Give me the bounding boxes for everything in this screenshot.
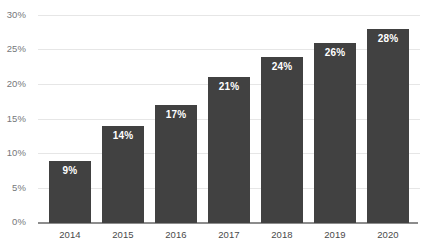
bar-2017[interactable]: 21% — [208, 77, 250, 223]
bar-value-2019: 26% — [314, 48, 356, 58]
bar-2016[interactable]: 17% — [155, 105, 197, 223]
bar-series: 9% 2014 14% 2015 17% 2016 21% 2017 24% — [38, 0, 420, 252]
y-tick-label-10: 10% — [0, 148, 26, 158]
bar-2014[interactable]: 9% — [49, 161, 91, 223]
y-tick-label-5: 5% — [0, 183, 26, 193]
bar-value-2014: 9% — [49, 166, 91, 176]
x-tick-label-2016: 2016 — [149, 230, 203, 240]
bar-value-2020: 28% — [367, 34, 409, 44]
bar-2018[interactable]: 24% — [261, 57, 303, 223]
bar-2020[interactable]: 28% — [367, 29, 409, 223]
bar-2019[interactable]: 26% — [314, 43, 356, 223]
bar-value-2015: 14% — [102, 131, 144, 141]
bar-value-2016: 17% — [155, 110, 197, 120]
bar-chart: 30% 25% 20% 15% 10% 5% 0% 9% 2014 14% 20… — [0, 0, 428, 252]
x-tick-label-2018: 2018 — [255, 230, 309, 240]
y-tick-label-25: 25% — [0, 44, 26, 54]
y-tick-label-0: 0% — [0, 217, 26, 227]
y-tick-label-15: 15% — [0, 114, 26, 124]
bar-value-2018: 24% — [261, 62, 303, 72]
x-tick-label-2020: 2020 — [361, 230, 415, 240]
bar-value-2017: 21% — [208, 82, 250, 92]
x-tick-label-2017: 2017 — [202, 230, 256, 240]
x-tick-label-2014: 2014 — [43, 230, 97, 240]
y-tick-label-20: 20% — [0, 79, 26, 89]
bar-2015[interactable]: 14% — [102, 126, 144, 223]
y-tick-label-30: 30% — [0, 10, 26, 20]
x-tick-label-2019: 2019 — [308, 230, 362, 240]
x-tick-label-2015: 2015 — [96, 230, 150, 240]
